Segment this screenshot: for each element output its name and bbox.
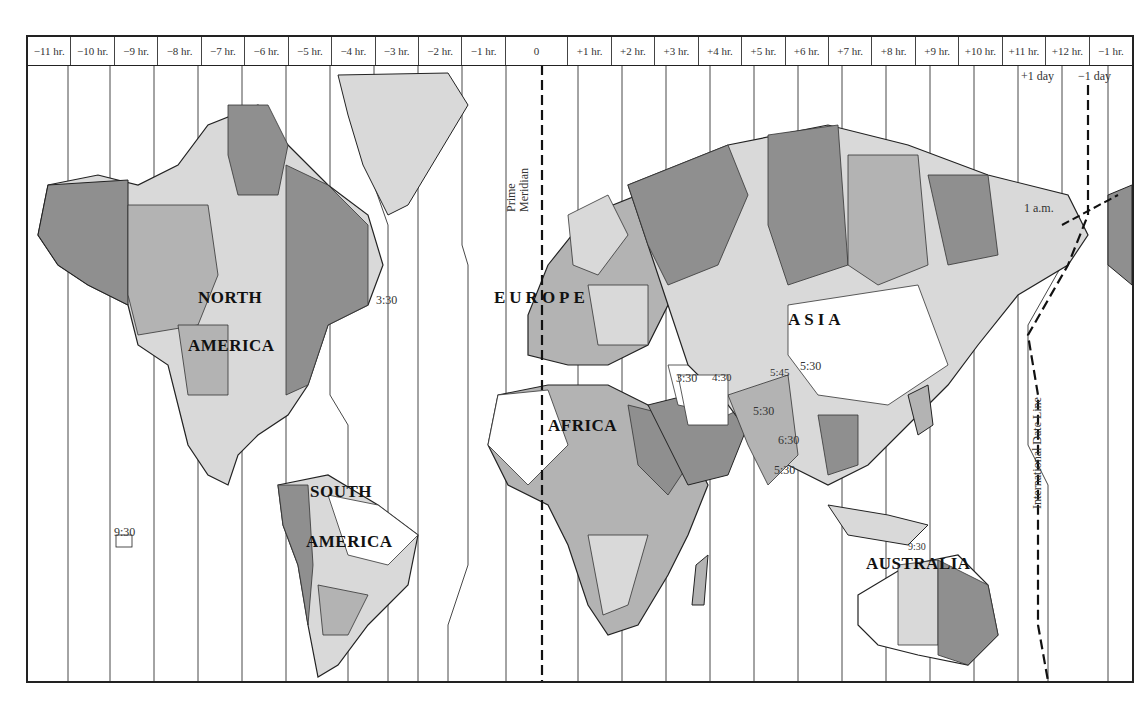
meridian-label: Meridian xyxy=(518,168,531,212)
zone-cell: +10 hr. xyxy=(959,37,1002,65)
zone-cell: −7 hr. xyxy=(202,37,245,65)
continent-label-america: AMERICA xyxy=(188,337,275,354)
zone-cell: −1 hr. xyxy=(462,37,505,65)
offset-iran: 3:30 xyxy=(676,372,697,384)
minus-one-day-label: −1 day xyxy=(1078,70,1111,82)
zone-cell: −8 hr. xyxy=(158,37,201,65)
offset-newfoundland: 3:30 xyxy=(376,294,397,306)
zone-cell: −11 hr. xyxy=(28,37,71,65)
zone-cell: +3 hr. xyxy=(655,37,698,65)
zone-cell: +7 hr. xyxy=(829,37,872,65)
offset-myanmar: 6:30 xyxy=(778,434,799,446)
offset-marquesas: 9:30 xyxy=(114,526,135,538)
zone-cell: −2 hr. xyxy=(419,37,462,65)
zone-cell: −4 hr. xyxy=(332,37,375,65)
zone-cell: +1 hr. xyxy=(568,37,611,65)
continent-label-south: SOUTH xyxy=(310,483,372,500)
continent-label-australia: AUSTRALIA xyxy=(866,555,971,572)
time-zone-header-row: −11 hr. −10 hr. −9 hr. −8 hr. −7 hr. −6 … xyxy=(28,37,1132,66)
zone-cell: +12 hr. xyxy=(1046,37,1089,65)
offset-sri-lanka: 5:30 xyxy=(774,464,795,476)
zone-cell: +11 hr. xyxy=(1003,37,1046,65)
continent-label-south-america: AMERICA xyxy=(306,533,393,550)
zone-cell: −6 hr. xyxy=(245,37,288,65)
prime-meridian-label: Prime Meridian xyxy=(505,168,531,212)
continent-label-north: NORTH xyxy=(198,289,262,306)
zone-cell: +5 hr. xyxy=(742,37,785,65)
zone-cell-zero: 0 xyxy=(506,37,569,65)
zone-cell: −5 hr. xyxy=(289,37,332,65)
continent-label-europe: EUROPE xyxy=(494,289,589,306)
world-map-graphic xyxy=(28,65,1132,681)
one-am-label: 1 a.m. xyxy=(1024,202,1054,214)
zone-cell: −9 hr. xyxy=(115,37,158,65)
zone-cell: −10 hr. xyxy=(71,37,114,65)
zone-cell: −3 hr. xyxy=(376,37,419,65)
time-zone-map: −11 hr. −10 hr. −9 hr. −8 hr. −7 hr. −6 … xyxy=(26,35,1134,683)
offset-central-australia: 9:30 xyxy=(908,542,926,552)
zone-cell: +6 hr. xyxy=(786,37,829,65)
zone-cell: +9 hr. xyxy=(916,37,959,65)
international-date-line-label: International Date Line xyxy=(1031,397,1044,509)
offset-india-east: 5:30 xyxy=(800,360,821,372)
plus-one-day-label: +1 day xyxy=(1021,70,1054,82)
continent-label-africa: AFRICA xyxy=(548,417,617,434)
continent-label-asia: ASIA xyxy=(788,311,845,328)
zone-cell: +2 hr. xyxy=(612,37,655,65)
zone-cell: −1 hr. xyxy=(1090,37,1132,65)
zone-cell: +8 hr. xyxy=(872,37,915,65)
zone-cell: +4 hr. xyxy=(699,37,742,65)
offset-afghanistan: 4:30 xyxy=(712,372,732,383)
offset-india: 5:30 xyxy=(753,405,774,417)
offset-nepal: 5:45 xyxy=(770,367,790,378)
